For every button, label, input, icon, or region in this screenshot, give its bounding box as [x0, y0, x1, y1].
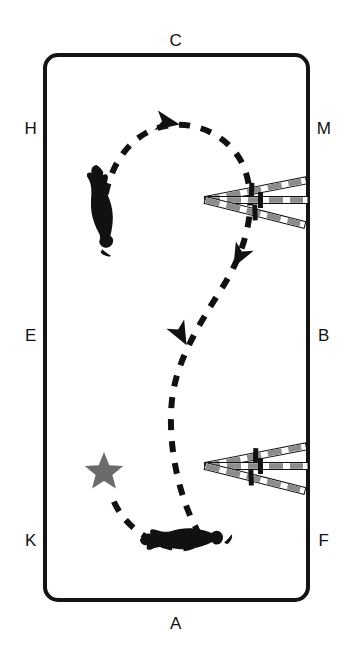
arena-border	[45, 55, 308, 600]
pole-marker	[258, 192, 263, 208]
arena-letter-c: C	[170, 31, 183, 50]
arena-letter-m: M	[317, 119, 332, 138]
pole-marker	[258, 458, 263, 474]
arena-letter-a: A	[170, 614, 182, 633]
arena-letter-b: B	[318, 326, 330, 345]
arena-letter-k: K	[25, 531, 37, 550]
arena-diagram-canvas: C H M E B K F A	[0, 0, 351, 655]
arena-letter-e: E	[25, 326, 37, 345]
pole-marker	[248, 469, 254, 485]
arena-letter-f: F	[319, 531, 330, 550]
arena-letter-h: H	[25, 119, 38, 138]
dressage-arena-diagram: C H M E B K F A	[0, 0, 351, 655]
pole-marker	[253, 448, 259, 464]
pole-marker	[252, 204, 258, 220]
